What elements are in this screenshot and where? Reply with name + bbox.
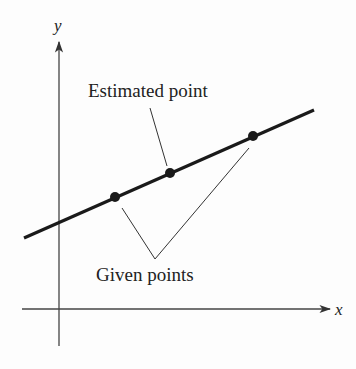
estimated-point-label: Estimated point <box>88 80 209 101</box>
diagram-svg: y x Estimated point Given points <box>0 0 356 369</box>
y-axis-label: y <box>52 16 62 35</box>
x-axis-label: x <box>334 300 343 319</box>
estimated-point <box>165 168 175 178</box>
interpolation-diagram: y x Estimated point Given points <box>0 0 356 369</box>
estimated-leader <box>150 108 167 166</box>
given-leader <box>122 148 249 259</box>
given-points-label: Given points <box>96 264 194 285</box>
given-point-2 <box>248 131 258 141</box>
given-point-1 <box>110 192 120 202</box>
